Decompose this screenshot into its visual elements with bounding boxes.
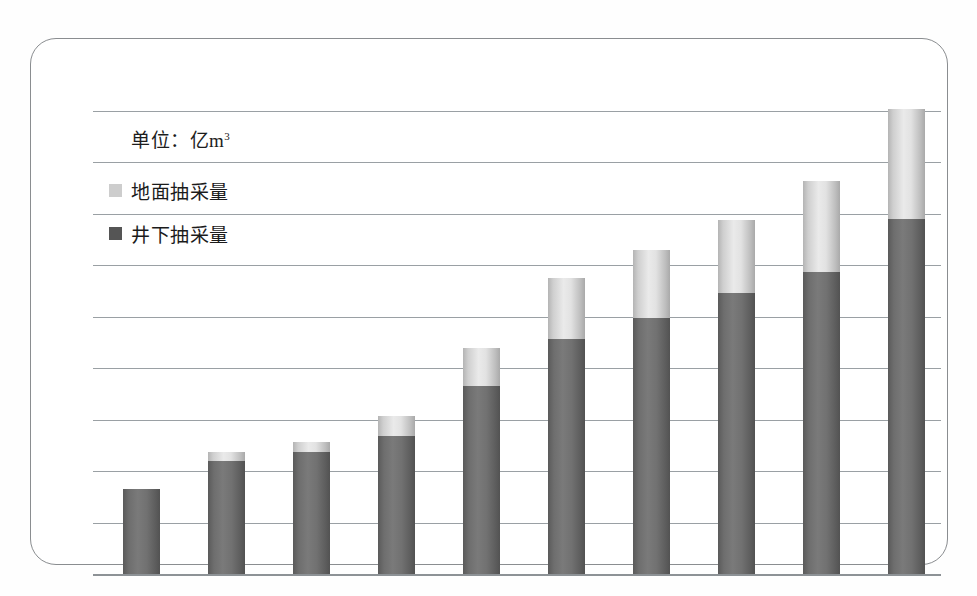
bar-segment-underground: [463, 386, 500, 574]
bar-segment-surface: [293, 442, 330, 452]
legend-swatch-light-icon: [109, 184, 122, 197]
bar-segment-underground: [548, 339, 585, 574]
bar-segment-surface: [888, 109, 925, 219]
bar-segment-underground: [803, 272, 840, 574]
gridline: [93, 111, 941, 112]
bar-segment-surface: [208, 452, 245, 461]
bar-column: [548, 278, 585, 574]
bar-segment-surface: [803, 181, 840, 272]
bar-column: [633, 250, 670, 574]
legend-item-underground: 井下抽采量: [109, 220, 229, 247]
chart-screenshot: 单位：亿m3 地面抽采量 井下抽采量: [0, 0, 977, 596]
legend-label-surface: 地面抽采量: [131, 177, 229, 204]
bar-column: [463, 348, 500, 574]
chart-legend: 地面抽采量 井下抽采量: [109, 177, 229, 263]
bar-column: [293, 442, 330, 574]
bar-segment-surface: [718, 220, 755, 293]
bar-segment-underground: [378, 436, 415, 574]
gridline: [93, 162, 941, 163]
bar-segment-surface: [378, 416, 415, 437]
bar-column: [123, 489, 160, 574]
bar-segment-underground: [888, 219, 925, 574]
bar-segment-surface: [548, 278, 585, 339]
bar-segment-underground: [293, 452, 330, 574]
bar-segment-underground: [633, 318, 670, 574]
bar-segment-underground: [208, 461, 245, 574]
bar-column: [718, 220, 755, 574]
legend-label-underground: 井下抽采量: [131, 220, 229, 247]
bar-column: [803, 181, 840, 574]
legend-item-surface: 地面抽采量: [109, 177, 229, 204]
bar-segment-underground: [123, 489, 160, 574]
axis-baseline: [93, 574, 941, 576]
bar-column: [208, 452, 245, 574]
chart-card: 单位：亿m3 地面抽采量 井下抽采量: [30, 38, 948, 565]
bar-column: [888, 109, 925, 574]
bar-column: [378, 416, 415, 574]
unit-caption: 单位：亿m3: [131, 125, 230, 152]
unit-caption-exponent: 3: [224, 130, 230, 142]
legend-swatch-dark-icon: [109, 227, 122, 240]
bar-segment-surface: [633, 250, 670, 318]
bar-segment-surface: [463, 348, 500, 387]
unit-caption-text: 单位：亿m: [131, 130, 224, 151]
bar-segment-underground: [718, 293, 755, 574]
